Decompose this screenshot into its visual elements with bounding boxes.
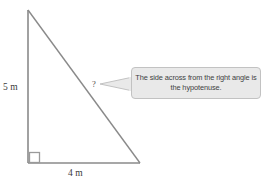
horizontal-leg-label: 4 m — [68, 169, 83, 179]
callout-box: The side across from the right angle is … — [131, 67, 261, 99]
callout-tail-triangle — [100, 77, 133, 91]
vertical-leg-label: 5 m — [3, 83, 18, 93]
right-angle-square-icon — [30, 153, 40, 163]
hypotenuse-question-label: ? — [92, 80, 96, 89]
diagram-canvas: 5 m 4 m ? The side across from the right… — [0, 0, 266, 183]
callout-text: The side across from the right angle is … — [134, 73, 258, 93]
callout-pointer-tail — [100, 74, 134, 94]
